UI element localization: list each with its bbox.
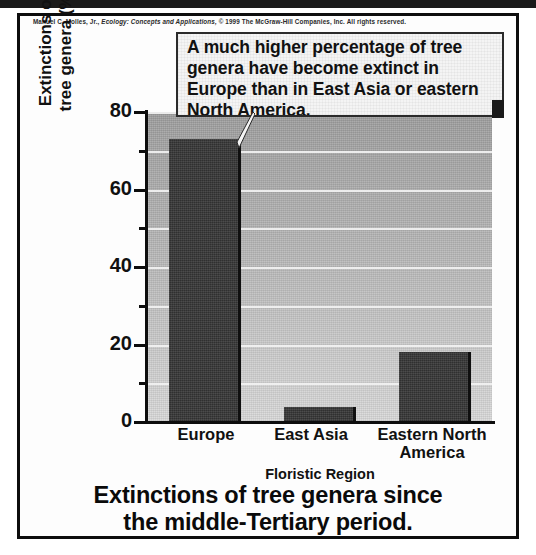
- x-tick-label-europe: Europe: [148, 425, 264, 443]
- callout-text: A much higher percentage of tree genera …: [187, 37, 497, 117]
- bar-europe: [169, 139, 241, 422]
- bar-texture: [284, 407, 353, 423]
- caption-line2: the middle-Tertiary period.: [28, 509, 508, 536]
- y-axis-title-line1: Extinctions of: [36, 0, 56, 160]
- chart-plot-area: [148, 112, 492, 422]
- y-tick-label: 20: [92, 332, 132, 355]
- y-tick-minor: [139, 150, 147, 153]
- top-black-band: [0, 0, 536, 8]
- bar-texture: [399, 352, 468, 422]
- y-tick-label: 40: [92, 254, 132, 277]
- x-axis-title: Floristic Region: [148, 466, 492, 482]
- y-tick-major: [134, 421, 147, 424]
- y-tick-minor: [139, 305, 147, 308]
- callout-leader-line: [237, 112, 255, 148]
- callout-box: A much higher percentage of tree genera …: [176, 32, 504, 117]
- figure-caption: Extinctions of tree genera since the mid…: [28, 482, 508, 536]
- y-tick-major: [134, 111, 147, 114]
- x-axis-line: [145, 421, 495, 424]
- bar-eastern-north-america: [399, 352, 471, 422]
- callout-corner-tab: [492, 100, 504, 118]
- x-tick-label-eastern-north-america: Eastern North America: [362, 425, 502, 461]
- x-tick-label-enam-line1: Eastern North: [362, 425, 502, 443]
- y-tick-minor: [139, 227, 147, 230]
- bar-texture: [169, 139, 238, 422]
- x-tick-label-east-asia: East Asia: [253, 425, 369, 443]
- y-tick-major: [134, 189, 147, 192]
- credit-rights: © 1999 The McGraw-Hill Companies, Inc. A…: [219, 18, 407, 25]
- y-axis-title-line2: tree genera (%): [56, 0, 76, 160]
- y-axis-tick-labels: 020406080: [88, 0, 132, 555]
- bar-east-asia: [284, 407, 356, 423]
- y-tick-label: 80: [92, 99, 132, 122]
- y-tick-minor: [139, 382, 147, 385]
- x-tick-label-enam-line2: America: [362, 443, 502, 461]
- y-tick-label: 0: [92, 409, 132, 432]
- y-tick-major: [134, 344, 147, 347]
- y-tick-major: [134, 266, 147, 269]
- caption-line1: Extinctions of tree genera since: [28, 482, 508, 509]
- y-tick-label: 60: [92, 177, 132, 200]
- figure-page: Manuel C. Molles, Jr., Ecology: Concepts…: [0, 0, 536, 555]
